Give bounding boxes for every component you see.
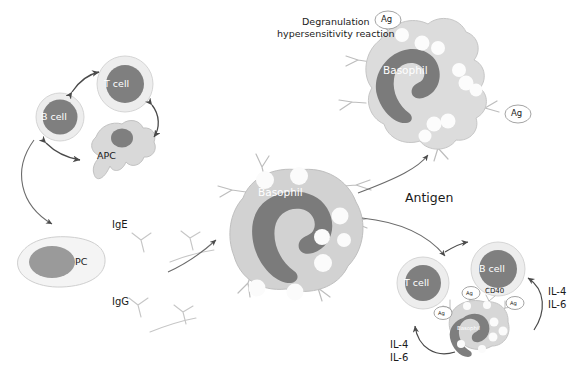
b-cell-bottom-label: B cell [479,263,505,275]
antigen-label: Antigen [405,190,453,206]
t-cell-top-label: T cell [104,78,129,90]
arrow-basophil-to-bcell-cluster [362,218,445,256]
antigen-tag-cluster-left: Ag [466,290,473,297]
basophil-center-label: Basophil [258,186,303,199]
cell-pc [18,237,106,287]
basophil-degranulating-label: Basophil [383,64,428,77]
antigen-tag-top: Ag [381,14,392,25]
ige-label: IgE [112,219,128,232]
cytokine-il4-left: IL-4 [390,339,408,352]
arrow-bcell-to-pc [22,140,52,224]
diagram-title: Degranulation hypersensitivity reaction [277,16,395,40]
t-cell-bottom-label: T cell [404,277,429,289]
pc-label: PC [75,256,87,268]
cytokine-group-left: IL-4 IL-6 [390,339,408,364]
antigen-tag-right: Ag [511,108,522,119]
cytokine-il6-left: IL-6 [390,352,408,365]
cytokine-group-right: IL-4 IL-6 [548,286,566,311]
diagram-canvas: Degranulation hypersensitivity reaction … [0,0,585,378]
arrow-antigen-to-bcell-bottom [445,242,468,252]
cytokine-il6-right: IL-6 [548,299,566,312]
arrow-il-right [528,278,542,330]
basophil-small-label: Basophil [457,325,480,332]
arrow-il-left [415,326,455,354]
apc-label: APC [97,150,116,162]
cd40-label: CD40 [485,287,504,296]
antibody-ige-symbols [129,231,214,332]
b-cell-top-label: B cell [41,111,67,123]
igg-label: IgG [112,296,129,309]
antigen-tag-cluster-right: Ag [510,300,517,307]
antigen-tag-cluster-far-left: Ag [438,310,445,317]
cell-basophil-degranulating [339,18,499,161]
arrow-bcell-tcell [72,72,99,92]
arrow-bcell-apc [46,143,80,160]
arrow-basophil-to-degranulation [358,155,428,193]
cytokine-il4-right: IL-4 [548,286,566,299]
cell-basophil-center [218,154,371,301]
